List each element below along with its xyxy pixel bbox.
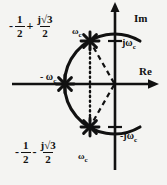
tick-negative-text: -jω (120, 130, 134, 141)
pole-zero-plot: Im Re jωc -jωc - ωc - 1 2 + j√3 2 ωc - 1… (0, 0, 167, 185)
upper-second-fraction: j√3 2 (35, 14, 54, 39)
real-axis (12, 79, 159, 89)
upper-operator: + (27, 19, 34, 34)
lower-second-numerator: j√3 (39, 140, 58, 152)
lower-second-fraction: j√3 2 (39, 140, 58, 165)
lower-omega-c-multiplier: ωc (78, 152, 88, 164)
tick-label-positive-jwc: jωc (122, 38, 136, 51)
radius-dashed-upper (91, 43, 114, 83)
imaginary-axis (111, 2, 120, 170)
upper-first-denominator: 2 (15, 26, 25, 39)
upper-second-denominator: 2 (40, 26, 50, 39)
pole-marker-real (56, 75, 74, 93)
upper-second-numerator: j√3 (35, 14, 54, 26)
upper-first-numerator: 1 (15, 14, 25, 26)
lower-pole-expression: - 1 2 - j√3 2 (14, 140, 59, 165)
imaginary-axis-label: Im (134, 13, 147, 24)
tick-label-negative-jwc: -jωc (120, 131, 137, 144)
tick-negative-sub: c (134, 136, 137, 144)
pole-marker-upper (81, 32, 99, 50)
lower-omega-sub: c (85, 156, 88, 164)
lower-first-denominator: 2 (21, 152, 31, 165)
lower-second-denominator: 2 (43, 152, 53, 165)
lower-lead-sign: - (15, 145, 19, 160)
lower-operator: - (33, 145, 37, 160)
upper-first-fraction: 1 2 (15, 14, 25, 39)
lower-first-numerator: 1 (21, 140, 31, 152)
tick-real-text: - ω (40, 71, 53, 82)
tick-positive-text: jω (122, 37, 133, 48)
tick-label-negative-wc: - ωc (40, 72, 56, 85)
tick-real-sub: c (53, 77, 56, 85)
radius-dashed-lower (91, 85, 114, 125)
upper-omega-c-multiplier: ωc (72, 27, 82, 39)
lower-omega-text: ω (78, 151, 85, 161)
upper-pole-expression: - 1 2 + j√3 2 (8, 14, 56, 39)
real-axis-label: Re (139, 66, 152, 77)
upper-lead-sign: - (9, 19, 13, 34)
upper-omega-text: ω (72, 26, 79, 36)
lower-first-fraction: 1 2 (21, 140, 31, 165)
pole-marker-lower (81, 118, 99, 136)
tick-positive-sub: c (133, 43, 136, 51)
upper-omega-sub: c (79, 31, 82, 39)
